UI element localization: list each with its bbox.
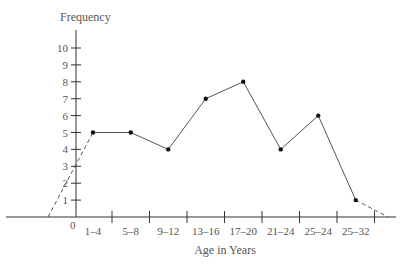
x-tick-label: 17–20 <box>230 225 258 237</box>
data-point <box>316 113 320 117</box>
x-tick-label: 25–32 <box>342 225 370 237</box>
right-extension-dashed <box>356 200 388 217</box>
x-tick-label: 5–8 <box>123 225 140 237</box>
frequency-polygon-chart: Frequency 12345678910 1–45–89–1213–1617–… <box>0 0 408 264</box>
x-axis-title: Age in Years <box>194 243 256 257</box>
x-tick-label: 25–24 <box>305 225 333 237</box>
y-axis-ticks: 12345678910 <box>57 42 81 206</box>
y-tick-label: 3 <box>63 160 69 172</box>
x-tick-label: 1–4 <box>85 225 102 237</box>
left-extension-dashed <box>48 133 93 218</box>
origin-label: 0 <box>70 219 76 231</box>
data-point <box>166 147 170 151</box>
data-point <box>241 80 245 84</box>
x-tick-label: 13–16 <box>192 225 220 237</box>
data-series <box>48 80 388 217</box>
y-tick-label: 6 <box>63 110 69 122</box>
y-tick-label: 2 <box>63 177 69 189</box>
frequency-line <box>93 82 356 200</box>
y-axis-title: Frequency <box>60 10 111 24</box>
x-tick-label: 21–24 <box>267 225 295 237</box>
y-tick-label: 8 <box>63 76 69 88</box>
y-tick-label: 5 <box>63 127 69 139</box>
y-tick-label: 10 <box>57 42 69 54</box>
x-tick-label: 9–12 <box>157 225 179 237</box>
y-tick-label: 7 <box>63 93 69 105</box>
data-point <box>354 198 358 202</box>
x-axis-ticks: 1–45–89–1213–1617–2021–2425–2425–32 <box>85 211 375 237</box>
y-tick-label: 1 <box>63 194 69 206</box>
data-point <box>279 147 283 151</box>
y-tick-label: 4 <box>63 143 69 155</box>
data-point <box>91 130 95 134</box>
data-point <box>204 97 208 101</box>
data-point <box>129 130 133 134</box>
y-tick-label: 9 <box>63 59 69 71</box>
